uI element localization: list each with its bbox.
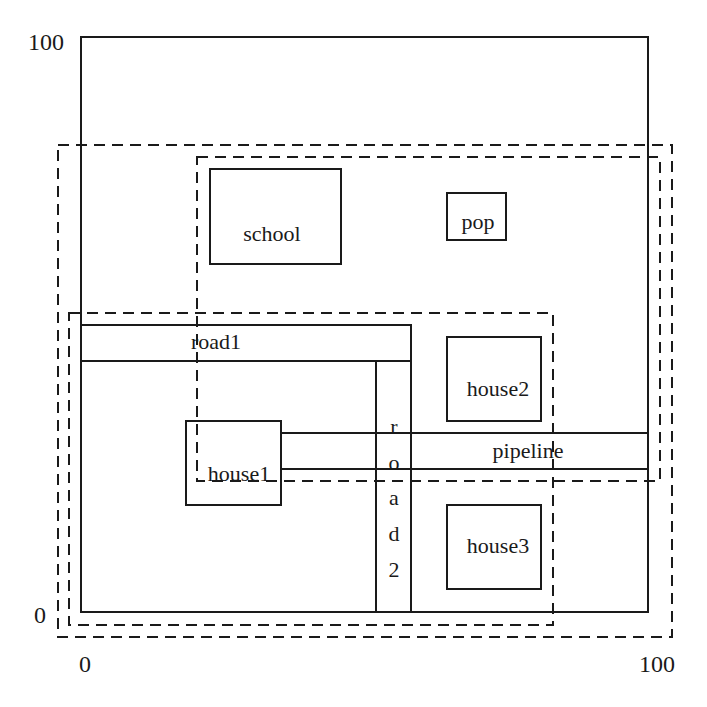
- house1-label: house1: [208, 461, 270, 486]
- x-axis-max-label: 100: [639, 651, 675, 677]
- school-box: school: [210, 169, 341, 264]
- y-axis-min-label: 0: [34, 602, 46, 628]
- spatial-layout-diagram: 100 0 0 100 school pop road1 r o a d 2 h…: [0, 0, 707, 707]
- dashed-region-outer: [58, 145, 672, 637]
- pop-label: pop: [462, 209, 495, 234]
- pipeline-box: pipeline: [281, 433, 648, 469]
- road2-letter-o: o: [389, 450, 400, 475]
- pop-box: pop: [447, 193, 506, 240]
- house2-label: house2: [467, 376, 529, 401]
- road1-label: road1: [191, 329, 241, 354]
- road2-letter-r: r: [390, 414, 398, 439]
- house1-box: house1: [186, 421, 281, 505]
- house2-box: house2: [447, 337, 541, 421]
- road2-letter-a: a: [389, 485, 399, 510]
- x-axis-min-label: 0: [79, 651, 91, 677]
- school-label: school: [243, 221, 300, 246]
- house3-label: house3: [467, 533, 529, 558]
- y-axis-max-label: 100: [28, 29, 64, 55]
- house3-box: house3: [447, 505, 541, 589]
- road2-box: r o a d 2: [376, 361, 411, 612]
- road1-box: road1: [81, 325, 411, 361]
- pipeline-label: pipeline: [493, 438, 564, 463]
- road2-letter-2: 2: [389, 557, 400, 582]
- road2-letter-d: d: [389, 521, 400, 546]
